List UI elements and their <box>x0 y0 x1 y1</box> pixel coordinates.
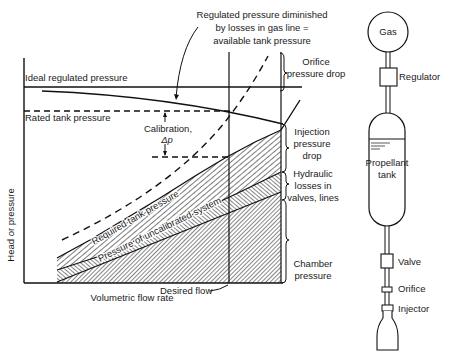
tank-label-2: tank <box>378 169 396 180</box>
injection-label-3: drop <box>302 150 321 161</box>
rated-tank-label: Rated tank pressure <box>25 112 111 123</box>
injector-plate <box>382 305 393 311</box>
hydraulic-label-2: losses in <box>295 180 332 191</box>
injector-label: Injector <box>398 303 429 314</box>
regulator-box <box>380 68 397 86</box>
orifice-plate <box>382 287 392 292</box>
chamber-label-2: pressure <box>295 270 332 281</box>
injection-bracket <box>282 124 289 172</box>
orifice-drop-label-1: Orifice <box>302 56 329 67</box>
valve-label: Valve <box>398 256 421 267</box>
ideal-regulated-label: Ideal regulated pressure <box>25 72 127 83</box>
chamber-label-1: Chamber <box>293 258 332 269</box>
regulator-label: Regulator <box>399 71 440 82</box>
tank-label-1: Propellant <box>366 157 409 168</box>
regulated-annotation-line3: available tank pressure <box>213 35 311 46</box>
injection-label-2: pressure <box>294 138 331 149</box>
calibration-label: Calibration, <box>144 123 192 134</box>
calibration-delta-label: Δp <box>160 134 173 145</box>
injection-label-1: Injection <box>294 126 329 137</box>
regulated-annotation-line1: Regulated pressure diminished <box>197 9 328 20</box>
chamber-bracket <box>282 200 289 283</box>
y-axis-label: Head or pressure <box>5 188 16 261</box>
regulated-annotation-line2: by losses in gas line = <box>215 22 309 33</box>
feed-system-schematic: Gas Regulator Propellant tank Valve Orif… <box>366 12 441 350</box>
orifice-label: Orifice <box>398 283 425 294</box>
hydraulic-label-1: Hydraulic <box>293 168 333 179</box>
thrust-chamber <box>377 311 398 350</box>
orifice-drop-label-2: pressure drop <box>287 68 346 79</box>
valve-box <box>381 254 393 268</box>
pressure-flow-diagram: Regulated pressure diminished by losses … <box>0 0 449 362</box>
hydraulic-label-3: valves, lines <box>287 192 339 203</box>
x-axis-label: Volumetric flow rate <box>91 292 174 303</box>
desired-flow-leader <box>210 285 228 291</box>
gas-label: Gas <box>379 26 397 37</box>
